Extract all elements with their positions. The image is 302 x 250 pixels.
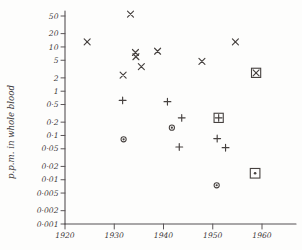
data-point-circle-dot: [121, 137, 126, 142]
data-point-plus: [119, 97, 126, 104]
data-point-boxed-plus: [214, 113, 223, 122]
data-point-cross: [128, 11, 134, 17]
y-tick-label: 0·05: [42, 144, 59, 153]
y-tick-label: 0·01: [42, 175, 59, 184]
marker-plus-glyph: [214, 135, 221, 142]
y-tick-label: 20: [48, 29, 59, 38]
y-tick-label: 2: [53, 74, 59, 83]
data-point-circle-dot: [169, 125, 174, 130]
x-tick-label: 1930: [105, 231, 124, 240]
y-tick-label: 0·1: [46, 131, 58, 140]
data-point-cross: [84, 39, 90, 45]
data-point-cross: [120, 72, 126, 78]
data-point-cross: [232, 39, 238, 45]
marker-cross-glyph: [199, 58, 205, 64]
y-tick-label: 0·5: [46, 100, 58, 109]
data-point-plus: [214, 135, 221, 142]
marker-cross-glyph: [253, 70, 259, 76]
y-tick-label: 0·2: [46, 118, 58, 127]
x-axis: 19201930194019501960: [55, 224, 296, 240]
data-point-cross: [133, 54, 139, 60]
data-point-boxed-dot: [250, 168, 260, 178]
data-point-cross: [138, 64, 144, 70]
y-axis-title-text: p.p.m. in whole blood: [6, 85, 16, 179]
marker-cross-glyph: [138, 64, 144, 70]
x-tick-label: 1960: [252, 231, 271, 240]
marker-cross-glyph: [128, 11, 134, 17]
marker-cross-glyph: [120, 72, 126, 78]
y-tick-label: 0·002: [37, 206, 59, 215]
y-tick-label: 10: [49, 43, 59, 52]
data-point-plus: [222, 144, 229, 151]
data-point-boxed-cross: [251, 68, 260, 77]
data-point-plus: [164, 98, 171, 105]
marker-center-dot: [216, 184, 218, 186]
x-tick-label: 1940: [154, 231, 173, 240]
data-points: [84, 11, 261, 188]
y-tick-label: 1: [54, 87, 59, 96]
y-axis: 5020105210·50·20·10·050·020·010·0050·002…: [37, 11, 65, 229]
marker-center-dot: [254, 172, 257, 175]
marker-plus-glyph: [164, 98, 171, 105]
marker-cross-glyph: [155, 48, 161, 54]
x-tick-label: 1950: [203, 231, 222, 240]
marker-plus-glyph: [222, 144, 229, 151]
data-point-plus: [176, 144, 183, 151]
data-point-circle-dot: [214, 183, 219, 188]
marker-center-dot: [123, 138, 125, 140]
marker-plus-glyph: [215, 114, 222, 121]
marker-plus-glyph: [176, 144, 183, 151]
y-axis-title: p.p.m. in whole blood: [6, 85, 16, 179]
marker-plus-glyph: [178, 114, 185, 121]
marker-cross-glyph: [133, 54, 139, 60]
marker-plus-glyph: [119, 97, 126, 104]
marker-center-dot: [171, 127, 173, 129]
y-tick-label: 0·02: [42, 162, 59, 171]
marker-cross-glyph: [232, 39, 238, 45]
y-tick-label: 0·005: [37, 189, 59, 198]
y-tick-label: 50: [49, 12, 59, 21]
x-tick-label: 1920: [55, 231, 74, 240]
data-point-cross: [155, 48, 161, 54]
scatter-plot: 5020105210·50·20·10·050·020·010·0050·002…: [0, 0, 302, 250]
data-point-plus: [178, 114, 185, 121]
data-point-cross: [199, 58, 205, 64]
marker-cross-glyph: [84, 39, 90, 45]
chart-container: 5020105210·50·20·10·050·020·010·0050·002…: [0, 0, 302, 250]
y-tick-label: 0·001: [37, 220, 59, 229]
y-tick-label: 5: [54, 56, 59, 65]
